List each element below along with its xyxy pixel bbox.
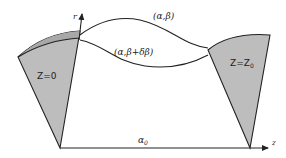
upper-curve-label: (α,β)	[153, 11, 175, 21]
axis-path-label: α0	[138, 135, 148, 146]
right-surface-sector	[208, 35, 270, 148]
lower-curve-label: (α,β+δβ)	[114, 47, 154, 57]
z-axis-label: z	[271, 139, 276, 147]
left-surface-label: Z=0	[37, 71, 57, 81]
r-axis-label: r	[73, 12, 78, 21]
r-axis	[79, 14, 82, 40]
left-surface-sector	[18, 31, 80, 148]
ray-path-diagram: r z Z=0 Z=Z0 (α,β) (α,β+δβ) α0	[0, 0, 286, 158]
curve-alpha-beta	[80, 19, 208, 48]
